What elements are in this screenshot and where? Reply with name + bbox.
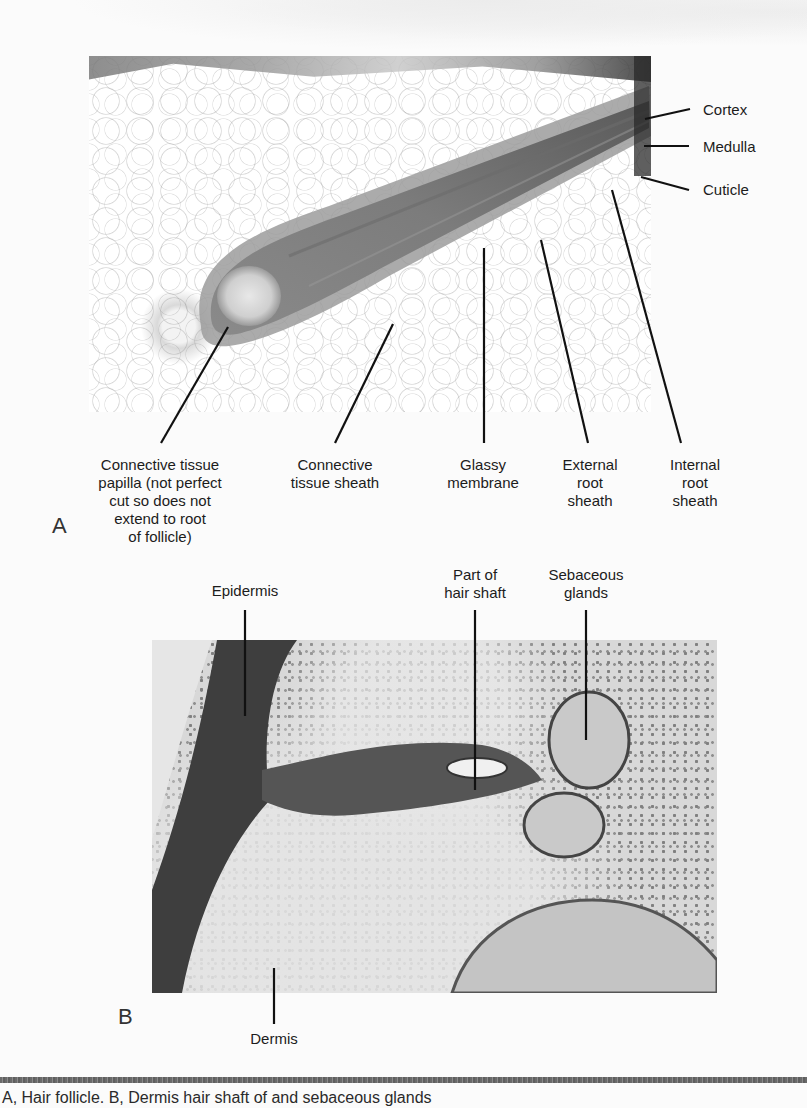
panel-letter-a: A	[52, 513, 67, 539]
label-internal-root-sheath: Internal root sheath	[655, 456, 735, 510]
micrograph-hair-follicle	[89, 56, 651, 412]
label-connective-tissue-sheath: Connective tissue sheath	[270, 456, 400, 492]
follicle-drawing	[89, 56, 651, 412]
label-sebaceous-glands: Sebaceous glands	[531, 566, 641, 602]
label-cortex: Cortex	[703, 101, 747, 119]
leader-cortex	[645, 109, 690, 119]
page-background-texture	[0, 0, 807, 60]
label-part-of-hair-shaft: Part of hair shaft	[425, 566, 525, 602]
label-external-root-sheath: External root sheath	[550, 456, 630, 510]
skin-drawing	[152, 640, 717, 993]
label-cuticle: Cuticle	[703, 181, 749, 199]
label-glassy-membrane: Glassy membrane	[433, 456, 533, 492]
label-epidermis: Epidermis	[185, 582, 305, 600]
panel-letter-b: B	[118, 1004, 133, 1030]
label-dermis: Dermis	[234, 1030, 314, 1048]
caption-divider	[0, 1077, 807, 1083]
figure-caption: A, Hair follicle. B, Dermis hair shaft o…	[2, 1088, 432, 1108]
label-connective-tissue-papilla: Connective tissue papilla (not perfect c…	[70, 456, 250, 546]
micrograph-skin-section	[152, 640, 717, 993]
label-medulla: Medulla	[703, 138, 756, 156]
